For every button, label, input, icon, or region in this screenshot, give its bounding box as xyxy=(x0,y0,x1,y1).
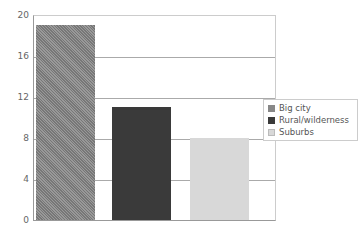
y-tick-4: 4 xyxy=(0,174,29,184)
legend-swatch xyxy=(268,117,275,124)
bar-suburbs xyxy=(190,138,249,220)
bar-big-city xyxy=(36,25,95,220)
legend: Big city Rural/wilderness Suburbs xyxy=(263,99,358,141)
y-tick-20: 20 xyxy=(0,10,29,20)
bar-rural-wilderness xyxy=(112,107,171,220)
y-tick-16: 16 xyxy=(0,51,29,61)
legend-item-suburbs: Suburbs xyxy=(268,126,353,138)
legend-item-big-city: Big city xyxy=(268,102,353,114)
y-tick-8: 8 xyxy=(0,133,29,143)
y-tick-12: 12 xyxy=(0,92,29,102)
legend-item-rural: Rural/wilderness xyxy=(268,114,353,126)
legend-swatch xyxy=(268,129,275,136)
y-tick-0: 0 xyxy=(0,215,29,225)
chart: 20 16 12 8 4 0 Big city Rural/wilderness… xyxy=(0,0,358,236)
plot-area xyxy=(33,15,276,221)
legend-swatch xyxy=(268,105,275,112)
